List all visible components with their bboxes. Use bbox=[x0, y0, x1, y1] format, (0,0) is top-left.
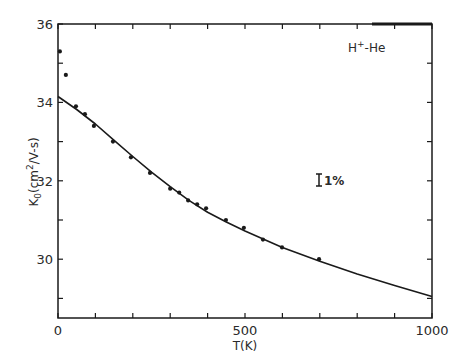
data-point bbox=[64, 73, 68, 77]
data-point bbox=[148, 171, 152, 175]
chart: 0500100030323436 T(K) K0(cm2/V-s) H+-He … bbox=[0, 0, 465, 363]
data-point bbox=[242, 226, 246, 230]
x-tick-label: 500 bbox=[233, 323, 258, 338]
data-point bbox=[74, 104, 78, 108]
data-point bbox=[168, 187, 172, 191]
data-point bbox=[111, 140, 115, 144]
y-axis-title-text: K0(cm2/V-s) bbox=[25, 137, 43, 206]
y-tick-label: 36 bbox=[36, 17, 53, 32]
data-point bbox=[280, 245, 284, 249]
data-point bbox=[317, 257, 321, 261]
axis-ticks bbox=[58, 24, 432, 318]
data-point bbox=[129, 155, 133, 159]
data-point bbox=[195, 202, 199, 206]
x-axis-title: T(K) bbox=[232, 339, 258, 353]
y-axis-title: K0(cm2/V-s) bbox=[25, 137, 43, 206]
y-tick-label: 34 bbox=[36, 95, 53, 110]
data-point bbox=[92, 124, 96, 128]
plot-border bbox=[58, 24, 432, 318]
fit-curve bbox=[58, 97, 432, 297]
data-point bbox=[83, 112, 87, 116]
data-point bbox=[204, 206, 208, 210]
plot-frame bbox=[58, 24, 432, 318]
theory-curve bbox=[58, 97, 432, 297]
error-bar-indicator: 1% bbox=[316, 174, 344, 188]
data-point bbox=[58, 49, 62, 53]
data-points bbox=[58, 49, 321, 261]
axis-tick-labels: 0500100030323436 bbox=[36, 17, 448, 338]
error-bar-label: 1% bbox=[324, 174, 344, 188]
y-tick-label: 30 bbox=[36, 252, 53, 267]
data-point bbox=[186, 198, 190, 202]
data-point bbox=[177, 190, 181, 194]
x-tick-label: 0 bbox=[54, 323, 62, 338]
species-label: H+-He bbox=[348, 39, 385, 55]
data-point bbox=[261, 238, 265, 242]
data-point bbox=[224, 218, 228, 222]
x-tick-label: 1000 bbox=[415, 323, 448, 338]
